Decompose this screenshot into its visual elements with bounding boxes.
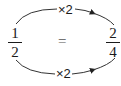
- left-numerator: 1: [8, 26, 22, 41]
- bottom-multiplier-label: ×2: [56, 67, 71, 80]
- top-arc-left: [16, 9, 57, 24]
- top-arc-right-tail: [93, 13, 114, 25]
- equals-sign: =: [58, 34, 66, 49]
- top-arc-right: [75, 9, 93, 13]
- right-numerator: 2: [106, 26, 120, 41]
- bottom-arc-right: [72, 70, 93, 74]
- left-denominator: 2: [8, 45, 22, 60]
- left-fraction: 1 2: [8, 26, 22, 60]
- right-fraction: 2 4: [106, 26, 120, 60]
- bottom-arc-left: [16, 60, 55, 74]
- left-fraction-bar: [8, 42, 22, 43]
- top-multiplier-label: ×2: [58, 3, 73, 16]
- right-fraction-bar: [106, 42, 120, 43]
- equivalent-fractions-diagram: 1 2 = 2 4 ×2 ×2: [0, 0, 121, 86]
- right-denominator: 4: [106, 45, 120, 60]
